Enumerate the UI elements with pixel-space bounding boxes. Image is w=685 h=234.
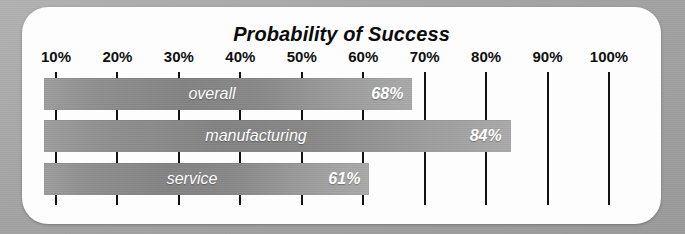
axis-tick-label-20: 20% [102, 48, 132, 65]
figure-root: Probability of Success overall68%manufac… [0, 0, 685, 234]
axis-tick-label-100: 100% [590, 48, 628, 65]
bar-manufacturing[interactable]: manufacturing84% [44, 120, 511, 152]
bar-series-label-overall: overall [188, 78, 235, 110]
bar-series-label-manufacturing: manufacturing [205, 120, 306, 152]
axis-tick-label-10: 10% [41, 48, 71, 65]
bar-value-label-manufacturing: 84% [470, 120, 502, 152]
bar-series-label-service: service [167, 163, 218, 195]
axis-tick-label-70: 70% [410, 48, 440, 65]
axis-tick-label-80: 80% [471, 48, 501, 65]
axis-tick-label-50: 50% [287, 48, 317, 65]
bar-value-label-overall: 68% [371, 78, 403, 110]
bar-value-label-service: 61% [328, 163, 360, 195]
axis-tick-label-60: 60% [348, 48, 378, 65]
plot-area: overall68%manufacturing84%service61%10%2… [22, 7, 661, 224]
bar-overall[interactable]: overall68% [44, 78, 412, 110]
gridline-90 [547, 72, 549, 205]
bar-service[interactable]: service61% [44, 163, 369, 195]
axis-tick-label-90: 90% [533, 48, 563, 65]
axis-tick-label-30: 30% [164, 48, 194, 65]
axis-tick-label-40: 40% [225, 48, 255, 65]
chart-panel: Probability of Success overall68%manufac… [22, 7, 661, 224]
gridline-100 [608, 72, 610, 205]
